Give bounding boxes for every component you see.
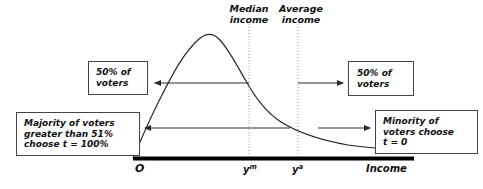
- majority-line1: Majority of voters: [24, 118, 139, 129]
- median-tick-label: ym: [243, 163, 257, 175]
- average-income-label: Average income: [265, 4, 337, 25]
- minority-line1: Minority of: [383, 116, 477, 127]
- minority-voters-box: Minority of voters choose t = 0: [375, 110, 478, 154]
- income-axis-label: Income: [366, 163, 407, 174]
- average-income-label-line1: Average: [279, 3, 323, 14]
- right-fifty-percent-box: 50% of voters: [348, 61, 414, 96]
- majority-line3: choose t = 100%: [24, 139, 139, 150]
- minority-line3: t = 0: [383, 137, 477, 148]
- left-fifty-percent-box: 50% of voters: [88, 61, 148, 95]
- minority-line2: voters choose: [383, 127, 477, 138]
- majority-voters-box: Majority of voters greater than 51% choo…: [16, 112, 140, 156]
- average-tick-label: ya: [292, 163, 303, 175]
- left-fifty-line1: 50% of: [96, 67, 147, 78]
- average-income-label-line2: income: [282, 14, 321, 25]
- median-income-label-line1: Median: [229, 3, 268, 14]
- median-income-label-line2: income: [230, 14, 269, 25]
- figure-canvas: Median income Average income 50% of vote…: [0, 0, 483, 189]
- income-density-curve: [133, 34, 412, 158]
- left-fifty-line2: voters: [96, 78, 147, 89]
- right-fifty-line1: 50% of: [357, 68, 413, 79]
- median-tick-sup: m: [250, 163, 257, 171]
- origin-label: O: [135, 162, 144, 175]
- right-fifty-line2: voters: [357, 79, 413, 90]
- majority-line2: greater than 51%: [24, 129, 139, 140]
- average-tick-sup: a: [299, 163, 304, 171]
